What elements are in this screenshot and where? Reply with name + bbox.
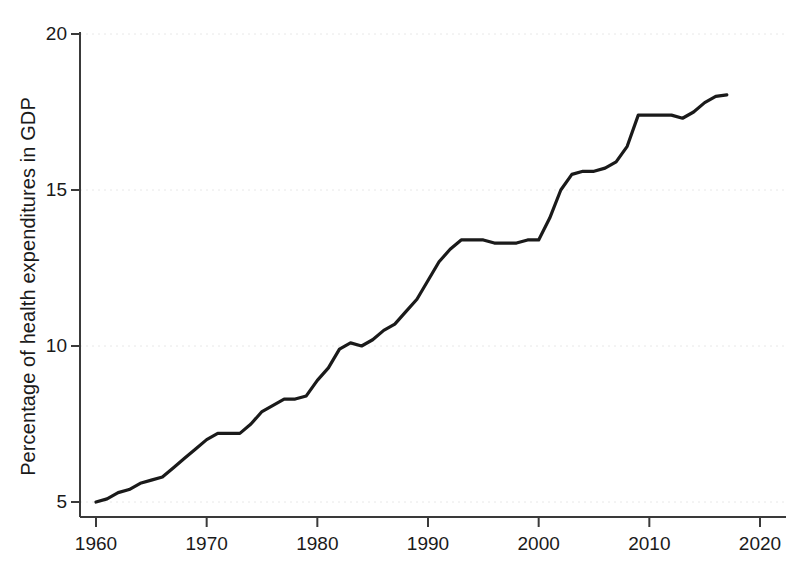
x-tick-label: 2010 xyxy=(628,533,670,555)
x-tick-label: 2000 xyxy=(518,533,560,555)
y-tick-label: 10 xyxy=(46,335,67,357)
x-tick-label: 1980 xyxy=(296,533,338,555)
x-tick-label: 2020 xyxy=(739,533,781,555)
data-series-lines xyxy=(96,95,727,502)
x-tick-label: 1990 xyxy=(407,533,449,555)
y-tick-label: 5 xyxy=(56,491,67,513)
x-tick-label: 1970 xyxy=(186,533,228,555)
y-tick-label: 15 xyxy=(46,179,67,201)
line-chart-plot xyxy=(0,0,790,573)
y-tick-label: 20 xyxy=(46,23,67,45)
chart-figure: Percentage of health expenditures in GDP… xyxy=(0,0,790,573)
gridlines xyxy=(80,34,786,502)
axis-ticks xyxy=(71,34,760,527)
x-tick-label: 1960 xyxy=(75,533,117,555)
